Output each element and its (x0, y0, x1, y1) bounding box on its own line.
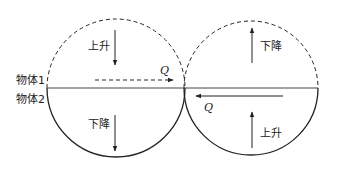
right-circle-top-dashed (184, 21, 318, 88)
object1-label: 物体1 (16, 73, 45, 87)
left-circle-top-dashed (47, 19, 185, 88)
right-top-label: 下降 (260, 39, 282, 53)
left-bottom-label: 下降 (88, 117, 110, 131)
right-circle-bottom-solid (184, 88, 318, 155)
q-top-label: Q (160, 64, 169, 77)
heat-transfer-diagram: 上升 Q 下降 下降 Q 上升 物体1 物体2 (0, 0, 338, 176)
object2-label: 物体2 (16, 92, 45, 106)
left-circle-bottom-solid (47, 88, 185, 157)
q-bottom-label: Q (204, 101, 213, 114)
right-bottom-label: 上升 (260, 127, 282, 140)
left-top-label: 上升 (88, 40, 110, 53)
